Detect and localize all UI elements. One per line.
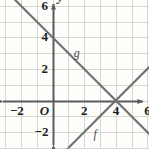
y-tick-label: 4 [42,30,49,43]
x-tick-label: −2 [10,104,24,117]
coordinate-plane-figure: x y O −2 2 4 6 −2 2 4 6 g f [0,0,149,149]
x-tick-label: 6 [144,104,149,117]
x-tick-label: 4 [113,104,120,117]
y-axis-label: y [58,0,64,3]
axes [3,4,143,145]
y-tick-label: 6 [42,0,49,12]
y-tick-label: 2 [42,62,49,75]
plot-canvas [0,0,149,149]
curve-label-f: f [94,128,97,140]
grid-lines [0,0,149,149]
x-tick-label: 2 [81,104,88,117]
curve-label-g: g [74,47,80,59]
y-tick-label: −2 [35,125,49,138]
origin-label: O [40,104,49,117]
